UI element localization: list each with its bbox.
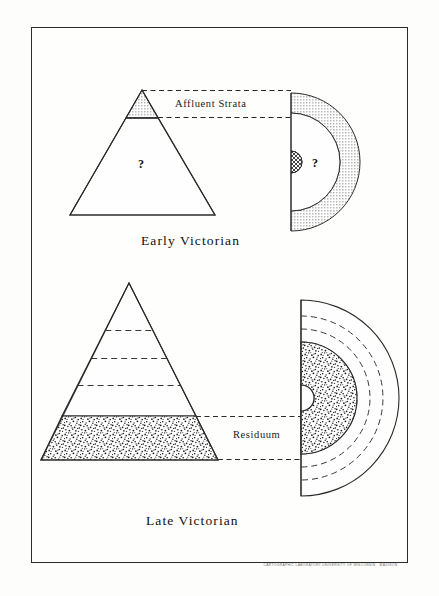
early-victorian-caption: Early Victorian — [141, 233, 240, 249]
early-pyramid-question-mark: ? — [138, 157, 144, 172]
late-victorian-caption: Late Victorian — [146, 513, 239, 529]
residuum-label: Residuum — [233, 429, 280, 440]
diagram-page: Affluent Strata ? ? Early Victorian Resi… — [0, 0, 439, 596]
early-semicircle-question-mark: ? — [312, 156, 318, 171]
cartographic-credit-line: CARTOGRAPHIC LABORATORY UNIVERSITY OF WI… — [258, 563, 403, 567]
affluent-strata-label: Affluent Strata — [175, 98, 247, 109]
